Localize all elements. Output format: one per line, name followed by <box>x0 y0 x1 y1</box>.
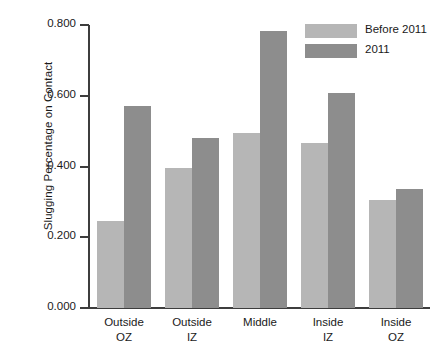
y-axis-title: Slugging Percentage on Contact <box>42 0 54 296</box>
bar-chart: Slugging Percentage on Contact 0.0000.20… <box>0 0 448 364</box>
bar <box>369 200 396 308</box>
legend-swatch-icon <box>305 44 357 58</box>
y-axis-tick <box>80 95 89 97</box>
bar <box>260 31 287 308</box>
category-label-line1: Outside <box>158 315 226 330</box>
y-axis-tick-label: 0.200 <box>0 229 76 241</box>
category-label-line1: Outside <box>90 315 158 330</box>
legend-swatch-icon <box>305 24 357 38</box>
y-axis-tick <box>80 166 89 168</box>
bar <box>396 189 423 308</box>
x-axis-category-label: InsideIZ <box>294 315 362 344</box>
x-axis-category-label: OutsideIZ <box>158 315 226 344</box>
y-axis-tick-label: 0.800 <box>0 17 76 29</box>
y-axis-tick <box>80 24 89 26</box>
x-axis-category-label: InsideOZ <box>362 315 430 344</box>
plot-area <box>90 25 430 308</box>
category-label-line1: Inside <box>294 315 362 330</box>
bar <box>233 133 260 308</box>
category-label-line2: IZ <box>294 330 362 345</box>
y-axis-tick-label: 0.000 <box>0 300 76 312</box>
category-label-line2: OZ <box>90 330 158 345</box>
bar <box>192 138 219 309</box>
y-axis-tick-label: 0.400 <box>0 159 76 171</box>
bar <box>97 221 124 308</box>
x-axis-category-label: OutsideOZ <box>90 315 158 344</box>
bar <box>165 168 192 308</box>
y-axis-tick-label: 0.600 <box>0 88 76 100</box>
legend-label: 2011 <box>365 43 390 55</box>
legend-label: Before 2011 <box>365 23 427 35</box>
x-axis-category-label: Middle <box>226 315 294 330</box>
category-label-line2: IZ <box>158 330 226 345</box>
y-axis-tick <box>80 236 89 238</box>
category-label-line1: Inside <box>362 315 430 330</box>
bar <box>301 143 328 308</box>
category-label-line2: OZ <box>362 330 430 345</box>
bar <box>124 106 151 308</box>
bar <box>328 93 355 308</box>
category-label-line1: Middle <box>226 315 294 330</box>
